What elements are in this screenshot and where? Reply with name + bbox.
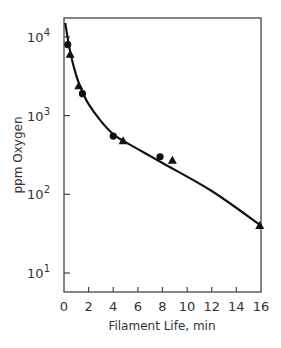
circle-marker (79, 90, 86, 97)
data-markers (64, 41, 264, 229)
x-tick-label: 14 (228, 299, 245, 314)
circle-marker (64, 41, 71, 48)
x-tick-label: 2 (84, 299, 92, 314)
x-tick-label: 4 (109, 299, 117, 314)
y-tick-label: 104 (27, 27, 50, 45)
x-axis-label: Filament Life, min (108, 319, 215, 333)
x-tick-label: 10 (179, 299, 196, 314)
fit-curve (65, 23, 261, 226)
y-tick-label: 102 (27, 184, 50, 202)
triangle-marker (168, 156, 177, 164)
y-tick-label: 103 (27, 106, 50, 124)
y-tick-label: 101 (27, 263, 50, 281)
x-tick-label: 12 (203, 299, 220, 314)
y-axis-label: ppm Oxygen (11, 117, 25, 194)
x-tick-label: 16 (253, 299, 270, 314)
triangle-marker (119, 136, 128, 144)
x-tick-label: 0 (60, 299, 68, 314)
circle-marker (110, 132, 117, 139)
axis-ticks (64, 37, 236, 292)
x-tick-label: 6 (134, 299, 142, 314)
chart: 0246810121416101102103104 Filament Life,… (0, 0, 281, 348)
triangle-marker (66, 50, 75, 58)
triangle-marker (74, 81, 83, 89)
circle-marker (156, 153, 163, 160)
x-tick-label: 8 (158, 299, 166, 314)
